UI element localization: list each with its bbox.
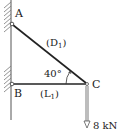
point-label-a: A <box>15 8 23 19</box>
wall-support <box>4 0 11 120</box>
angle-label: 40° <box>44 69 62 79</box>
wall-hatch-lower <box>4 66 11 92</box>
pin-b <box>10 82 14 86</box>
member-label-d1: (D1) <box>46 38 66 50</box>
pin-a <box>10 22 14 26</box>
point-label-b: B <box>14 88 22 99</box>
load-label: 8 kN <box>93 121 117 131</box>
wall-hatch-upper <box>4 2 11 32</box>
member-label-l1: (L1) <box>40 89 59 101</box>
point-label-c: C <box>92 79 100 90</box>
load-arrow-icon <box>84 86 90 128</box>
pin-c <box>86 83 89 86</box>
angle-arc <box>66 72 70 85</box>
